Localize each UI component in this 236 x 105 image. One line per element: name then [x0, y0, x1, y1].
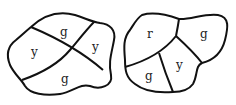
region-label: g [200, 27, 208, 41]
region-label: r [147, 27, 153, 41]
right-map-outline [124, 14, 227, 93]
region-label: g [145, 69, 153, 83]
right-map-divider-bottom [159, 53, 173, 92]
region-label: g [61, 72, 69, 86]
region-label: g [60, 25, 68, 39]
right-map-divider-top [176, 19, 179, 36]
map-coloring-diagram: g y y g r g g y [0, 0, 236, 105]
right-map [124, 14, 227, 93]
region-label: y [91, 40, 99, 54]
region-label: y [30, 45, 38, 59]
region-label: y [175, 58, 183, 72]
